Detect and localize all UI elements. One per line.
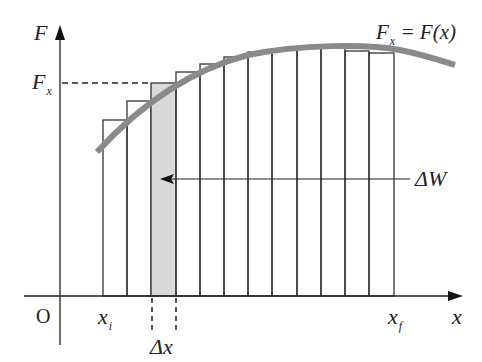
y-axis-arrow-icon [55, 25, 65, 40]
curve-label: Fx = F(x) [376, 22, 456, 43]
xi-label: xi [98, 306, 112, 328]
y-axis-label: F [34, 22, 47, 44]
dw-label: ΔW [415, 168, 446, 190]
bar [345, 51, 369, 296]
xi-sub: i [109, 319, 112, 333]
work-diagram: F Fx Fx = F(x) ΔW O xi xf x Δx [0, 0, 482, 362]
curve-rest: = F(x) [395, 20, 456, 44]
bar [127, 101, 151, 296]
bar [248, 52, 272, 296]
bar [297, 48, 321, 296]
bar [103, 120, 127, 296]
xf-sub: f [399, 319, 402, 333]
xf-main: x [388, 304, 398, 329]
xi-main: x [98, 304, 108, 329]
bar [200, 64, 224, 296]
curve-main: F [376, 20, 389, 44]
origin-label: O [36, 306, 50, 326]
fx-sub: x [46, 84, 51, 98]
x-axis-arrow-icon [448, 291, 463, 301]
bar [272, 49, 297, 296]
fx-main: F [32, 69, 45, 94]
bar [176, 72, 200, 296]
bar [369, 53, 394, 296]
diagram-canvas [0, 0, 482, 362]
bars [103, 48, 394, 296]
x-axis-label: x [452, 306, 462, 328]
highlighted-bar [151, 83, 176, 296]
bar [224, 57, 248, 296]
curve-sub: x [390, 34, 395, 48]
fx-label: Fx [32, 71, 52, 93]
dx-label: Δx [150, 336, 173, 358]
xf-label: xf [388, 306, 402, 328]
bar [321, 48, 345, 296]
